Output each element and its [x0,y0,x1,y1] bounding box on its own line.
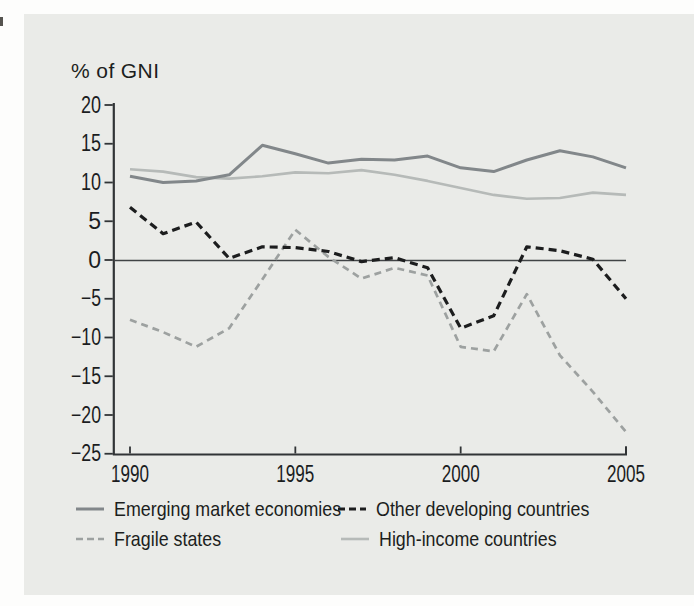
y-tick-label: −10 [71,324,101,350]
legend-item: High-income countries [340,527,588,551]
x-tick-label: 1990 [111,461,149,487]
y-tick-label: 20 [81,92,101,118]
series-line-other-developing-countries [130,207,626,328]
y-tick-label: 10 [81,169,101,195]
y-tick-label: 0 [88,247,101,273]
legend-item: Other developing countries [337,497,627,521]
legend-label: High-income countries [379,527,557,551]
legend-swatch-solid-line [75,504,105,514]
legend-swatch-solid-line [340,534,370,544]
legend-item: Fragile states [75,527,240,551]
series-line-high-income-countries [130,169,626,199]
y-tick-label: −15 [71,363,101,389]
y-tick-label: −20 [71,402,101,428]
x-tick-label: 2000 [442,461,480,487]
y-tick-label: 5 [88,208,101,234]
legend-label: Emerging market economies [114,497,341,521]
legend-label: Fragile states [114,527,221,551]
y-tick-label: −25 [71,440,101,466]
figure-page: % of GNI 20151050−5−10−15−20−25199019952… [0,0,694,606]
y-tick-label: 15 [81,130,101,156]
legend-swatch-dashed-line [75,534,105,544]
x-tick-label: 2005 [607,461,645,487]
x-tick-label: 1995 [276,461,314,487]
legend-swatch-dashed-line [337,504,367,514]
y-tick-label: −5 [81,285,101,311]
legend-item: Emerging market economies [75,497,381,521]
legend-label: Other developing countries [376,497,589,521]
